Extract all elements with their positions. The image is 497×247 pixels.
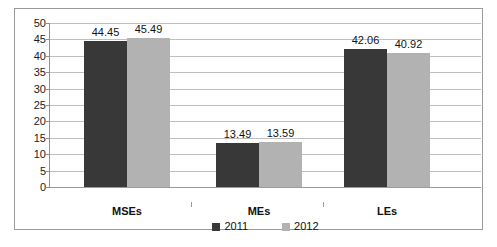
legend-swatch-icon [282,223,290,231]
y-tick-label: 25 [20,100,46,110]
category-label-mes: MEs [229,205,289,217]
y-tick-label: 15 [20,133,46,143]
y-tick-label: 40 [20,51,46,61]
bar-value-label: 13.59 [250,128,311,139]
bar-2012-les [387,53,430,187]
y-tick-label: 5 [20,166,46,176]
category-divider [191,202,192,207]
legend-item-2012[interactable]: 2012 [282,221,318,232]
bar-2012-mes [259,142,302,187]
bar-2011-mses [84,41,127,187]
y-tick-label: 10 [20,149,46,159]
legend: 2011 2012 [50,221,481,232]
y-tick-label: 50 [20,18,46,28]
y-tick-label: 35 [20,67,46,77]
bar-2011-les [344,49,387,187]
plot-area: 44.45 45.49 13.49 13.59 42.06 40.92 MSEs… [50,23,481,187]
legend-item-2011[interactable]: 2011 [212,221,248,232]
y-tick-label: 20 [20,116,46,126]
bar-2011-mes [216,143,259,187]
legend-swatch-icon [212,223,220,231]
category-label-les: LEs [357,205,417,217]
bar-2012-mses [127,38,170,187]
bar-value-label: 45.49 [118,24,179,35]
chart-container: 50 45 40 35 30 25 20 15 10 5 0 [14,8,483,230]
value-axis-ticks: 50 45 40 35 30 25 20 15 10 5 0 [15,23,46,187]
bar-value-label: 40.92 [378,39,439,50]
legend-label: 2011 [224,221,248,232]
category-label-mses: MSEs [97,205,157,217]
legend-label: 2012 [294,221,318,232]
y-tick-label: 30 [20,84,46,94]
y-tick-label: 0 [20,182,46,192]
y-tick-label: 45 [20,34,46,44]
gridline [50,23,481,24]
category-divider [323,202,324,207]
category-axis-line [50,187,481,188]
